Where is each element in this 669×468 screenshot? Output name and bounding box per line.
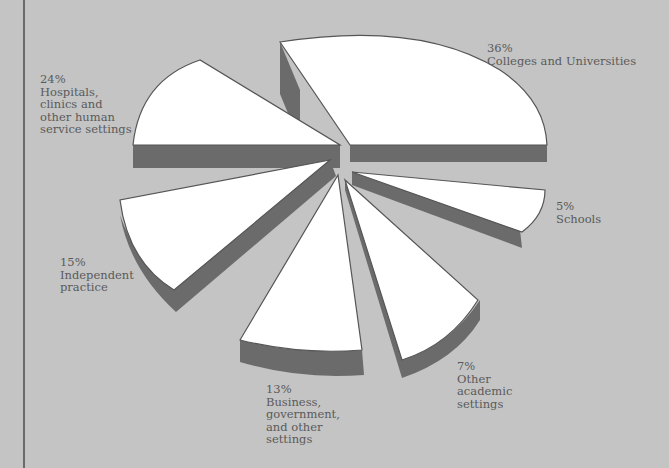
label-line: clinics and: [40, 98, 132, 111]
pct-hospitals: 24%: [40, 73, 132, 86]
label-other-academic: 7% Other academic settings: [457, 360, 512, 410]
pct-colleges: 36%: [487, 42, 636, 55]
label-schools: 5% Schools: [556, 200, 601, 225]
pct-independent: 15%: [60, 256, 134, 269]
label-line: settings: [266, 433, 340, 446]
pct-business: 13%: [266, 383, 340, 396]
label-line: academic: [457, 385, 512, 398]
label-hospitals: 24% Hospitals, clinics and other human s…: [40, 73, 132, 136]
pct-schools: 5%: [556, 200, 601, 213]
label-line: Schools: [556, 213, 601, 226]
label-line: settings: [457, 398, 512, 411]
label-colleges: 36% Colleges and Universities: [487, 42, 636, 67]
label-line: practice: [60, 281, 134, 294]
label-business: 13% Business, government, and other sett…: [266, 383, 340, 446]
label-independent: 15% Independent practice: [60, 256, 134, 294]
label-line: Colleges and Universities: [487, 55, 636, 68]
label-line: government,: [266, 408, 340, 421]
pct-other-academic: 7%: [457, 360, 512, 373]
label-line: service settings: [40, 123, 132, 136]
